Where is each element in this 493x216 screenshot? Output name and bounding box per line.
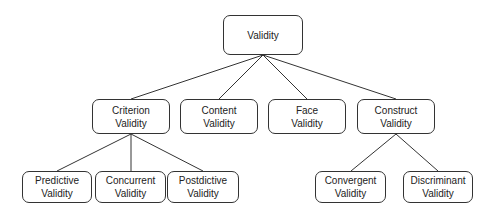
edge-validity-content [219, 55, 263, 99]
edge-construct-discriminant [396, 134, 438, 171]
node-label-line1: Concurrent [106, 174, 155, 187]
edge-criterion-predictive [57, 134, 131, 171]
edge-construct-convergent [351, 134, 396, 171]
node-criterion-validity: Criterion Validity [92, 99, 170, 134]
node-postdictive-validity: Postdictive Validity [167, 171, 239, 203]
node-label-line1: Convergent [325, 174, 377, 187]
node-label-line2: Validity [41, 187, 73, 200]
node-label-line2: Validity [187, 187, 219, 200]
node-predictive-validity: Predictive Validity [22, 171, 92, 203]
edge-criterion-postdictive [131, 134, 203, 171]
node-validity: Validity [223, 15, 303, 55]
edge-validity-criterion [131, 55, 263, 99]
node-face-validity: Face Validity [268, 99, 346, 134]
node-label-line2: Validity [115, 117, 147, 130]
node-label-line1: Postdictive [179, 174, 227, 187]
node-label-line2: Validity [115, 187, 147, 200]
node-label-line1: Face [296, 104, 318, 117]
edge-validity-construct [263, 55, 396, 99]
node-construct-validity: Construct Validity [357, 99, 435, 134]
node-label-line1: Content [201, 104, 236, 117]
node-label-line1: Criterion [112, 104, 150, 117]
node-convergent-validity: Convergent Validity [315, 171, 386, 203]
node-label-line2: Validity [335, 187, 367, 200]
edge-validity-face [263, 55, 307, 99]
node-label-line1: Discriminant [410, 174, 465, 187]
node-label-line1: Predictive [35, 174, 79, 187]
node-concurrent-validity: Concurrent Validity [95, 171, 166, 203]
node-discriminant-validity: Discriminant Validity [403, 171, 473, 203]
node-label-line2: Validity [422, 187, 454, 200]
node-label-line1: Construct [375, 104, 418, 117]
validity-tree-diagram: Validity Criterion Validity Content Vali… [0, 0, 493, 216]
node-label: Validity [247, 29, 279, 42]
node-content-validity: Content Validity [180, 99, 258, 134]
node-label-line2: Validity [203, 117, 235, 130]
node-label-line2: Validity [380, 117, 412, 130]
node-label-line2: Validity [291, 117, 323, 130]
